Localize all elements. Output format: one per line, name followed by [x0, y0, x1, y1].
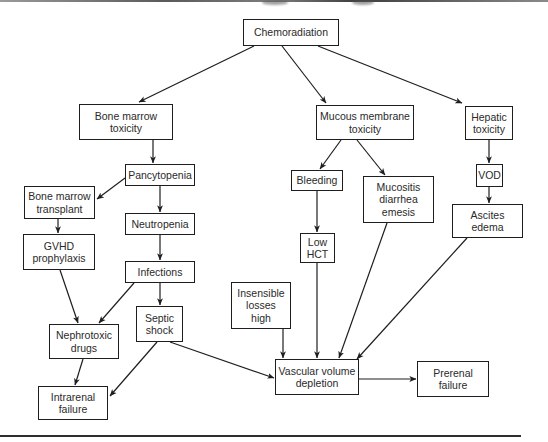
edge-septic-to-vascular [170, 342, 274, 378]
node-pancytopenia: Pancytopenia [125, 164, 195, 186]
node-bleeding: Bleeding [291, 170, 343, 191]
node-gvhd-prophylaxis: GVHD prophylaxis [23, 234, 95, 270]
node-vod: VOD [476, 164, 503, 187]
node-nephrotoxic-drugs: Nephrotoxic drugs [49, 324, 119, 359]
node-intrarenal-failure: Intrarenal failure [38, 386, 108, 420]
node-septic-shock: Septic shock [136, 306, 183, 342]
bottom-border-rule [0, 435, 521, 437]
node-neutropenia: Neutropenia [125, 213, 195, 235]
edge-gvhd-to-nephrotoxic [60, 270, 78, 323]
edge-ascites-to-vascular [357, 238, 467, 359]
node-insensible-losses-high: Insensible losses high [231, 282, 291, 329]
edge-mucositis-to-vascular [339, 223, 387, 358]
node-prerenal-failure: Prerenal failure [417, 361, 489, 397]
edge-nephrotoxic-to-intrarenal [75, 359, 83, 385]
edge-chemo-to-hepatic [318, 46, 462, 103]
node-bone-marrow-toxicity: Bone marrow toxicity [79, 104, 173, 140]
edge-mucous-to-mucositis [357, 140, 385, 175]
node-chemoradiation: Chemoradiation [243, 19, 339, 46]
edge-chemo-to-mucous-membrane [282, 46, 326, 103]
edge-mucous-to-bleeding [320, 140, 341, 169]
edge-pancytopenia-to-transplant [97, 178, 125, 199]
node-mucositis-diarrhea-emesis: Mucositis diarrhea emesis [363, 176, 434, 223]
node-low-hct: Low HCT [300, 233, 335, 263]
node-ascites-edema: Ascites edema [452, 204, 523, 238]
node-hepatic-toxicity: Hepatic toxicity [465, 106, 513, 140]
node-mucous-membrane-toxicity: Mucous membrane toxicity [316, 105, 414, 140]
edge-infections-to-nephrotoxic [99, 283, 134, 323]
edge-chemo-to-bone-marrow-toxicity [139, 46, 254, 102]
node-bone-marrow-transplant: Bone marrow transplant [24, 186, 95, 219]
node-infections: Infections [125, 261, 195, 283]
node-vascular-volume-depletion: Vascular volume depletion [275, 359, 359, 395]
